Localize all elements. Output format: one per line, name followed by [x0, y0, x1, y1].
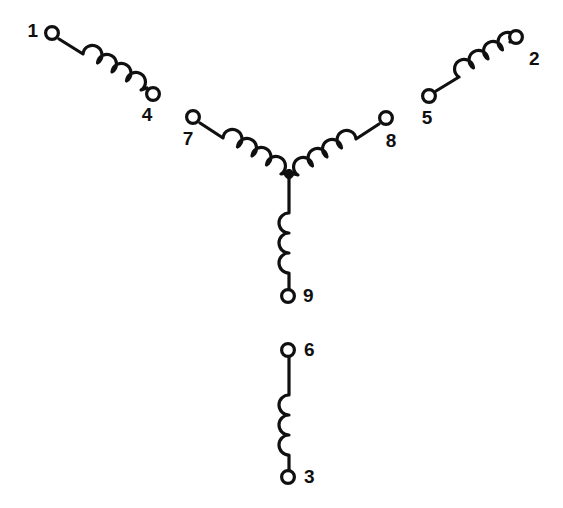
wye-neutral-junction-dot — [284, 169, 293, 178]
coil-7-junction — [200, 123, 288, 174]
terminal-8[interactable] — [380, 112, 393, 125]
terminal-9[interactable] — [282, 290, 295, 303]
lead-label-6: 6 — [304, 339, 315, 360]
lead-label-3: 3 — [304, 466, 315, 487]
lead-label-8: 8 — [386, 130, 397, 151]
winding-schematic-canvas: 1 4 2 5 7 8 9 6 3 — [0, 0, 563, 508]
coil-3-6-wire — [279, 357, 289, 470]
coil-9-junction — [279, 176, 289, 289]
coil-2-5 — [436, 32, 517, 91]
coil-1-4 — [59, 39, 147, 90]
coil-7-junction-wire — [200, 123, 288, 174]
coil-1-4-wire — [59, 39, 147, 90]
terminal-4[interactable] — [147, 88, 160, 101]
terminal-7[interactable] — [187, 111, 200, 124]
coil-9-junction-wire — [279, 176, 289, 289]
terminal-2[interactable] — [510, 31, 523, 44]
terminal-5[interactable] — [423, 90, 436, 103]
coil-2-5-wire — [436, 32, 517, 91]
coil-8-junction-wire — [290, 124, 379, 175]
lead-label-4: 4 — [142, 104, 153, 125]
lead-label-5: 5 — [422, 107, 433, 128]
lead-label-9: 9 — [303, 285, 314, 306]
terminal-1[interactable] — [46, 27, 59, 40]
winding-diagram: 1 4 2 5 7 8 9 6 3 — [0, 0, 563, 508]
lead-label-2: 2 — [529, 48, 540, 69]
lead-label-7: 7 — [183, 128, 194, 149]
lead-label-1: 1 — [27, 20, 38, 41]
terminal-6[interactable] — [282, 344, 295, 357]
terminal-3[interactable] — [282, 471, 295, 484]
coil-8-junction — [290, 124, 379, 175]
coil-3-6 — [279, 357, 289, 470]
